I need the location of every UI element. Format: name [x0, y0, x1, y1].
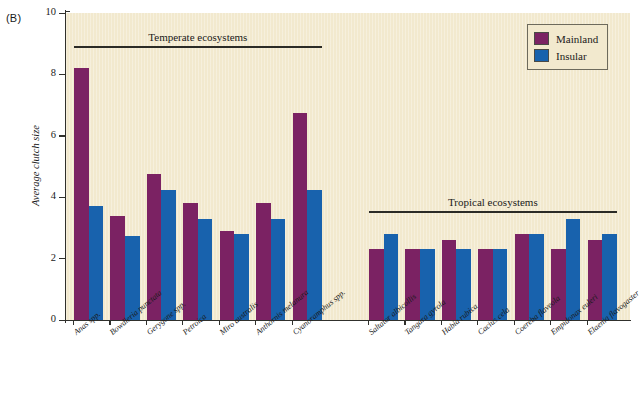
x-axis-category-label: Cacius cela	[476, 305, 511, 337]
x-axis-category-label: Miro australis	[218, 300, 260, 337]
legend-item-insular[interactable]: Insular	[534, 47, 598, 64]
x-axis-category-label: Habia rubica	[440, 302, 479, 337]
legend-label-mainland: Mainland	[556, 33, 598, 45]
legend-swatch-insular-icon	[534, 49, 549, 62]
legend-item-mainland[interactable]: Mainland	[534, 30, 598, 47]
x-axis-category-label: Anas spp.	[72, 310, 102, 337]
legend-swatch-mainland-icon	[534, 32, 549, 45]
legend-label-insular: Insular	[556, 50, 587, 62]
x-axis-category-label: Petroica	[181, 312, 208, 337]
legend: Mainland Insular	[527, 24, 608, 70]
